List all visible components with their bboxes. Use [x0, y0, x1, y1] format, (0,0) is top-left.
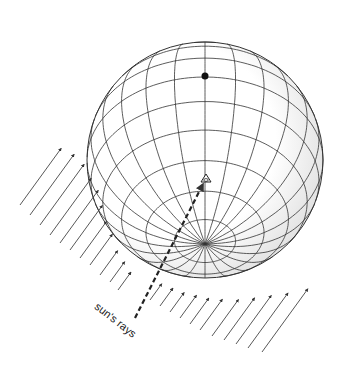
earth-sphere	[87, 42, 323, 278]
globe-diagram	[0, 0, 344, 379]
diagram: sun's rays	[0, 0, 344, 379]
